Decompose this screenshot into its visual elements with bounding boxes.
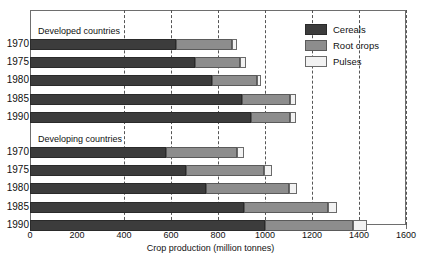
bar-segment-pulses [290, 94, 296, 105]
x-axis-tick-label: 200 [69, 230, 84, 240]
bar-segment-root-crops [265, 220, 353, 231]
bar-segment-root-crops [176, 39, 232, 50]
x-axis-tick [406, 225, 407, 229]
bar-segment-cereals [30, 202, 244, 213]
bar-segment-pulses [353, 220, 367, 231]
bar-row: 1980 [30, 75, 406, 86]
bar-row: 1990 [30, 112, 406, 123]
x-axis-tick-label: 1000 [255, 230, 275, 240]
bar-segment-root-crops [212, 75, 257, 86]
bar-segment-pulses [237, 147, 244, 158]
legend-item-cereals: Cereals [305, 24, 379, 35]
bar-segment-cereals [30, 57, 195, 68]
bar-segment-cereals [30, 220, 265, 231]
bar-row: 1985 [30, 94, 406, 105]
x-axis-tick-label: 1200 [302, 230, 322, 240]
y-axis-category-label: 1975 [1, 164, 29, 175]
legend-label-root-crops: Root crops [333, 40, 379, 51]
bar-row: 1990 [30, 220, 406, 231]
y-axis-category-label: 1980 [1, 74, 29, 85]
bar-segment-cereals [30, 94, 242, 105]
legend-swatch-pulses-icon [305, 56, 327, 67]
bar-row: 1975 [30, 165, 406, 176]
y-axis-category-label: 1975 [1, 56, 29, 67]
bar-row: 1980 [30, 183, 406, 194]
bar-segment-cereals [30, 75, 212, 86]
y-axis-category-label: 1985 [1, 201, 29, 212]
y-axis-category-label: 1980 [1, 182, 29, 193]
bar-segment-pulses [257, 75, 262, 86]
y-axis-category-label: 1970 [1, 38, 29, 49]
bar-segment-cereals [30, 112, 251, 123]
legend-swatch-cereals-icon [305, 24, 327, 35]
legend-item-root-crops: Root crops [305, 40, 379, 51]
x-axis-title: Crop production (million tonnes) [0, 243, 421, 253]
gridline [406, 10, 407, 225]
legend-label-cereals: Cereals [333, 24, 366, 35]
bar-segment-cereals [30, 183, 206, 194]
bar-segment-root-crops [166, 147, 237, 158]
bar-segment-cereals [30, 147, 166, 158]
bar-segment-root-crops [206, 183, 288, 194]
bar-segment-cereals [30, 39, 176, 50]
x-axis-tick-label: 400 [116, 230, 131, 240]
y-axis-category-label: 1970 [1, 146, 29, 157]
bar-row: 1970 [30, 147, 406, 158]
x-axis-tick-label: 1600 [396, 230, 416, 240]
x-axis-tick-label: 0 [27, 230, 32, 240]
bar-segment-root-crops [251, 112, 290, 123]
y-axis-category-label: 1990 [1, 219, 29, 230]
group-label-developed: Developed countries [38, 26, 120, 36]
bar-segment-root-crops [195, 57, 241, 68]
bar-segment-cereals [30, 165, 186, 176]
bar-segment-pulses [289, 183, 297, 194]
y-axis-category-label: 1985 [1, 93, 29, 104]
x-axis-tick-label: 800 [210, 230, 225, 240]
bar-segment-root-crops [242, 94, 290, 105]
bar-segment-root-crops [244, 202, 329, 213]
bar-segment-pulses [232, 39, 237, 50]
bar-row: 1985 [30, 202, 406, 213]
chart-legend: Cereals Root crops Pulses [305, 24, 379, 72]
y-axis-category-label: 1990 [1, 111, 29, 122]
bar-segment-pulses [264, 165, 272, 176]
bar-segment-pulses [290, 112, 296, 123]
legend-item-pulses: Pulses [305, 56, 379, 67]
bar-segment-root-crops [186, 165, 264, 176]
group-label-developing: Developing countries [38, 134, 122, 144]
crop-production-chart: 02004006008001000120014001600Developed c… [0, 0, 421, 259]
legend-label-pulses: Pulses [333, 56, 362, 67]
x-axis-tick-label: 1400 [349, 230, 369, 240]
bar-segment-pulses [240, 57, 246, 68]
bar-segment-pulses [328, 202, 336, 213]
legend-swatch-root-crops-icon [305, 40, 327, 51]
x-axis-tick-label: 600 [163, 230, 178, 240]
